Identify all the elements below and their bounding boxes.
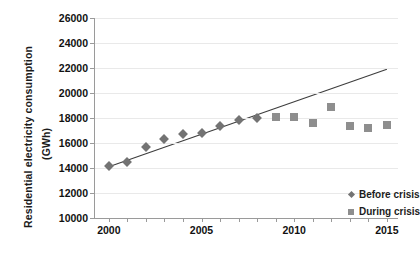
data-point-square	[272, 113, 280, 121]
x-minor-tick	[331, 218, 332, 222]
data-point-square	[327, 103, 335, 111]
gridline	[94, 43, 398, 44]
y-tick-label: 14000	[42, 162, 88, 174]
y-axis-line	[94, 18, 95, 218]
x-minor-tick	[257, 218, 258, 222]
y-tick-label: 18000	[42, 112, 88, 124]
x-minor-tick	[202, 218, 203, 222]
x-minor-tick	[313, 218, 314, 222]
x-minor-tick	[109, 218, 110, 222]
legend: Before crisis During crisis	[346, 186, 420, 220]
y-tick-label: 26000	[42, 12, 88, 24]
y-tick-label: 16000	[42, 137, 88, 149]
y-axis-title-line1: Residential electricity consumption	[22, 46, 34, 228]
x-minor-tick	[294, 218, 295, 222]
legend-label-during-crisis: During crisis	[359, 206, 420, 217]
x-axis-ticks	[94, 218, 398, 224]
x-minor-tick	[368, 218, 369, 222]
gridline	[94, 168, 398, 169]
x-minor-tick	[239, 218, 240, 222]
data-point-square	[364, 124, 372, 132]
data-point-square	[290, 113, 298, 121]
gridline	[94, 143, 398, 144]
legend-item-before-crisis: Before crisis	[346, 186, 420, 203]
x-tick-label: 2005	[190, 224, 213, 236]
y-tick-label: 20000	[42, 87, 88, 99]
data-point-square	[309, 119, 317, 127]
x-minor-tick	[127, 218, 128, 222]
x-minor-tick	[183, 218, 184, 222]
x-minor-tick	[350, 218, 351, 222]
data-point-square	[346, 122, 354, 130]
x-minor-tick	[146, 218, 147, 222]
plot-area: Before crisis During crisis	[94, 18, 398, 218]
x-tick-label: 2015	[375, 224, 398, 236]
x-minor-tick	[164, 218, 165, 222]
x-minor-tick	[220, 218, 221, 222]
gridline	[94, 18, 398, 19]
y-axis-tick-labels: 1000012000140001600018000200002200024000…	[42, 0, 88, 260]
y-tick-label: 10000	[42, 212, 88, 224]
x-minor-tick	[276, 218, 277, 222]
gridline	[94, 68, 398, 69]
legend-marker-square-icon	[346, 209, 356, 215]
legend-marker-diamond-icon	[346, 192, 356, 197]
y-tick-label: 24000	[42, 37, 88, 49]
y-tick-label: 12000	[42, 187, 88, 199]
gridline	[94, 118, 398, 119]
x-tick-label: 2010	[283, 224, 306, 236]
gridline	[94, 93, 398, 94]
data-point-square	[383, 121, 391, 129]
y-tick-label: 22000	[42, 62, 88, 74]
x-minor-tick	[387, 218, 388, 222]
legend-label-before-crisis: Before crisis	[359, 189, 420, 200]
x-tick-label: 2000	[97, 224, 120, 236]
